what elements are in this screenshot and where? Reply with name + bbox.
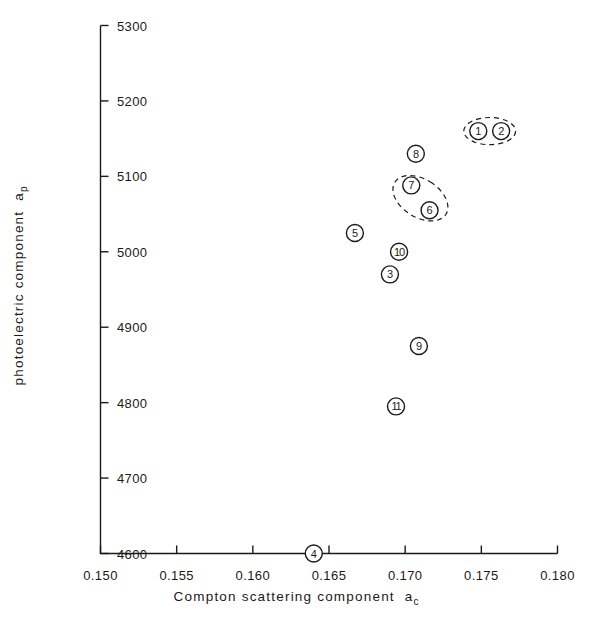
data-point-marker — [407, 145, 424, 162]
data-point-marker — [381, 266, 398, 283]
data-point-marker — [346, 224, 363, 241]
y-axis-tick-label: 5000 — [88, 244, 148, 259]
y-axis-tick-label: 4900 — [88, 320, 148, 335]
y-axis-tick-label: 4800 — [88, 395, 148, 410]
y-axis-title-text: photoelectric component — [11, 211, 26, 386]
x-axis-tick-label: 0.175 — [464, 568, 499, 583]
y-axis-title-symbol: a — [11, 192, 26, 201]
x-axis-title-symbol: a — [405, 589, 414, 604]
x-axis-tick-label: 0.155 — [159, 568, 194, 583]
x-axis-title-text: Compton scattering component — [174, 589, 395, 604]
x-axis-tick-label: 0.170 — [388, 568, 423, 583]
y-axis-title-subscript: p — [18, 187, 29, 193]
data-point-marker — [305, 545, 322, 562]
x-axis-title: Compton scattering component ac — [174, 589, 419, 606]
x-axis-title-subscript: c — [413, 596, 418, 607]
data-point-marker — [403, 177, 420, 194]
y-axis-title: photoelectric component ap — [11, 187, 28, 386]
data-point-marker — [470, 123, 487, 140]
scatter-plot-figure: 460047004800490050005100520053000.1500.1… — [0, 0, 592, 628]
y-axis-tick-label: 5300 — [88, 18, 148, 33]
data-point-marker — [493, 123, 510, 140]
y-axis-tick-label: 5200 — [88, 93, 148, 108]
data-point-marker — [391, 243, 408, 260]
x-axis-tick-label: 0.160 — [236, 568, 271, 583]
x-axis-tick-label: 0.150 — [83, 568, 118, 583]
data-point-marker — [421, 202, 438, 219]
y-axis-tick-label: 5100 — [88, 169, 148, 184]
x-axis-tick-label: 0.165 — [312, 568, 347, 583]
axes-layer — [101, 26, 558, 554]
axis-spines — [101, 26, 558, 554]
data-point-marker — [410, 338, 427, 355]
y-axis-tick-label: 4600 — [88, 546, 148, 561]
dashed-ellipse-group-6-7 — [385, 166, 456, 230]
y-axis-tick-label: 4700 — [88, 471, 148, 486]
x-axis-tick-label: 0.180 — [540, 568, 575, 583]
data-point-marker — [388, 398, 405, 415]
data-markers-layer — [305, 123, 509, 562]
